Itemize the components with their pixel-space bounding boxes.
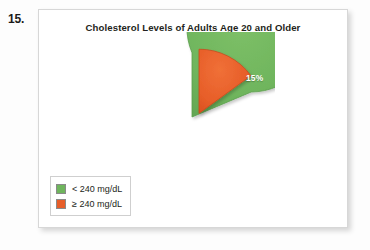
legend-item-below-240: < 240 mg/dL — [56, 181, 122, 196]
problem-number: 15. — [8, 12, 24, 26]
legend-swatch-orange — [56, 199, 66, 209]
legend-swatch-green — [56, 184, 66, 194]
legend-item-above-240: ≥ 240 mg/dL — [56, 196, 122, 211]
pie-slice-minor-label: 15% — [246, 73, 263, 83]
chart-legend: < 240 mg/dL ≥ 240 mg/dL — [50, 176, 131, 216]
pie-chart-svg — [109, 32, 275, 198]
legend-label-below-240: < 240 mg/dL — [72, 184, 122, 194]
legend-label-above-240: ≥ 240 mg/dL — [72, 199, 122, 209]
chart-card: Cholesterol Levels of Adults Age 20 and … — [38, 9, 348, 228]
